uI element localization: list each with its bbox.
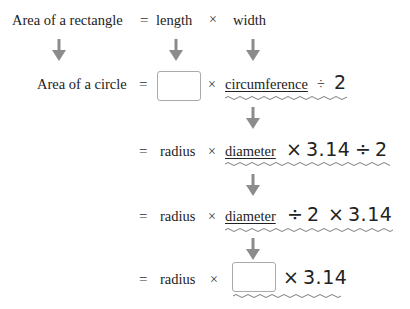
rectangle-area-label: Area of a rectangle: [12, 12, 123, 29]
times-sign: ×: [208, 144, 216, 160]
times-sign: ×: [209, 12, 217, 28]
number-two: 2: [375, 138, 388, 160]
down-arrow-icon: [246, 39, 260, 61]
divide-sign-large: ÷: [287, 203, 303, 225]
pi-value: 3.14: [303, 266, 347, 288]
times-sign-large: ×: [283, 266, 299, 288]
equals-sign: =: [140, 12, 148, 29]
radius-term: radius: [160, 271, 195, 288]
number-two: 2: [334, 71, 347, 93]
times-sign: ×: [210, 272, 218, 288]
down-arrow-icon: [246, 107, 260, 129]
answer-blank-box[interactable]: [157, 71, 201, 101]
wavy-underline: [225, 95, 347, 101]
equals-sign: =: [139, 271, 147, 288]
radius-term: radius: [160, 143, 195, 160]
divide-sign: ÷: [317, 77, 325, 93]
pi-value: 3.14: [348, 203, 392, 225]
diameter-term: diameter: [225, 208, 276, 225]
down-arrow-icon: [246, 174, 260, 196]
times-sign-large: ×: [286, 138, 302, 160]
equals-sign: =: [139, 208, 147, 225]
pi-value: 3.14: [306, 138, 350, 160]
times-sign: ×: [208, 77, 216, 93]
answer-blank-box[interactable]: [232, 262, 276, 292]
times-sign: ×: [208, 209, 216, 225]
width-term: width: [233, 12, 266, 29]
down-arrow-icon: [52, 39, 66, 61]
wavy-underline: [225, 227, 393, 233]
times-sign-large: ×: [328, 203, 344, 225]
diameter-term: diameter: [225, 143, 276, 160]
circle-area-label: Area of a circle: [37, 76, 127, 93]
down-arrow-icon: [169, 39, 183, 61]
equals-sign: =: [139, 76, 147, 93]
divide-sign-large: ÷: [355, 138, 371, 160]
wavy-underline: [233, 293, 341, 299]
length-term: length: [156, 12, 192, 29]
number-two: 2: [307, 203, 320, 225]
wavy-underline: [225, 161, 390, 167]
circumference-term: circumference: [225, 76, 308, 93]
down-arrow-icon: [246, 238, 260, 260]
equals-sign: =: [139, 143, 147, 160]
radius-term: radius: [160, 208, 195, 225]
